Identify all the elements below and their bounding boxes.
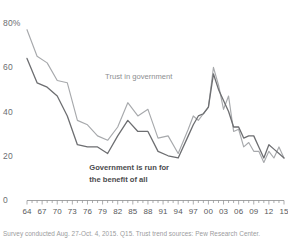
x-axis-labels: 646770737679828588919497000306091215 (22, 207, 288, 216)
x-axis-tick-label: 97 (189, 207, 199, 216)
x-axis-tick-label: 64 (22, 207, 32, 216)
x-axis-tick-label: 15 (279, 207, 288, 216)
y-axis-tick-label: 20 (3, 151, 13, 161)
y-axis-tick-label: 0 (3, 195, 8, 205)
footnote-text: Survey conducted Aug. 27-Oct. 4, 2015. Q… (3, 230, 260, 237)
x-axis-tick-label: 73 (68, 207, 78, 216)
data-series-group (27, 30, 284, 163)
x-axis-tick-label: 06 (234, 207, 244, 216)
y-axis-labels: 020406080% (3, 18, 21, 205)
series-annotation-label: the benefit of all (89, 175, 147, 184)
x-axis-tick-label: 79 (98, 207, 108, 216)
y-axis-tick-label: 40 (3, 107, 13, 117)
chart-container: 020406080% 64677073767982858891949700030… (0, 0, 288, 244)
x-axis-tick-label: 91 (159, 207, 169, 216)
x-axis-tick-label: 12 (264, 207, 274, 216)
series-line (27, 30, 284, 163)
y-axis-tick-label: 80% (3, 18, 21, 28)
x-axis-tick-label: 76 (83, 207, 93, 216)
x-axis-tick-label: 03 (219, 207, 229, 216)
x-axis-tick-label: 67 (38, 207, 48, 216)
x-axis-tick-label: 82 (113, 207, 123, 216)
x-axis-tick-label: 85 (128, 207, 138, 216)
line-chart: 020406080% 64677073767982858891949700030… (0, 0, 288, 244)
y-axis-tick-label: 60 (3, 62, 13, 72)
series-annotation-label: Government is run for (89, 163, 169, 172)
x-axis-tick-label: 70 (53, 207, 63, 216)
x-axis-ticks (27, 201, 284, 205)
series-annotation-label: Trust in government (105, 72, 173, 81)
x-axis-tick-label: 09 (249, 207, 259, 216)
x-axis-tick-label: 88 (143, 207, 153, 216)
x-axis-tick-label: 94 (174, 207, 184, 216)
x-axis-tick-label: 00 (204, 207, 214, 216)
chart-annotations: Trust in governmentGovernment is run for… (89, 72, 173, 184)
